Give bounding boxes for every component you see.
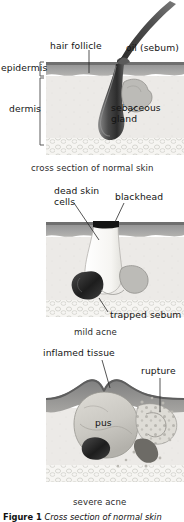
skin-cross-section-illustration [0,0,184,522]
label-blackhead: blackhead [115,192,163,202]
label-pus: pus [95,418,112,428]
panel-mild-acne [46,221,184,317]
panel-severe-acne [46,379,184,482]
label-dermis: dermis [9,104,41,114]
label-oil-sebum: oil (sebum) [126,43,179,53]
label-dead-skin-cells-line2: cells [54,197,75,207]
acne-figure: hair follicle oil (sebum) epidermis derm… [0,0,184,522]
label-sebaceous-gland-line2: gland [111,114,137,124]
caption-severe-acne: severe acne [73,497,126,507]
label-hair-follicle: hair follicle [50,41,102,51]
label-inflamed-tissue: inflamed tissue [43,348,115,358]
figure-caption-number: Figure 1 [3,512,42,522]
caption-normal-skin: cross section of normal skin [31,163,154,173]
figure-caption: Figure 1 Cross section of normal skin [3,512,162,522]
label-rupture: rupture [141,366,176,376]
label-trapped-sebum: trapped sebum [110,310,181,320]
label-sebaceous-gland-line1: sebaceous [111,103,161,113]
caption-mild-acne: mild acne [74,327,117,337]
label-epidermis: epidermis [1,63,47,73]
label-dead-skin-cells-line1: dead skin [54,186,99,196]
panel-normal-skin [46,1,184,155]
figure-caption-text: Cross section of normal skin [44,512,161,522]
